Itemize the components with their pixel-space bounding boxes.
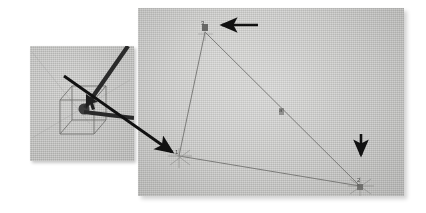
screenshot-root: 3 1 2 a: [0, 0, 426, 213]
callout-layer: [0, 0, 426, 213]
arrow-from-inset: [64, 76, 172, 152]
